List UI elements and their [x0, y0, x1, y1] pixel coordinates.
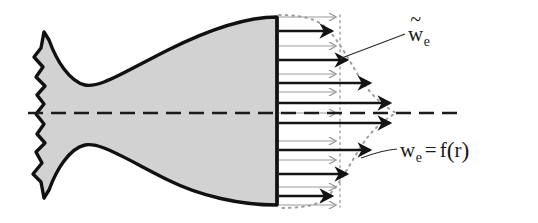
- nozzle-group: [33, 17, 277, 205]
- nozzle-body-shape: [33, 17, 277, 205]
- uniform-velocity-arrows: [279, 17, 336, 205]
- leader-line-w-tilde: [339, 34, 405, 59]
- label-leaders: [339, 34, 405, 158]
- diagram-canvas: [0, 0, 538, 223]
- nozzle-velocity-profile-figure: ~we we=f(r): [0, 0, 538, 223]
